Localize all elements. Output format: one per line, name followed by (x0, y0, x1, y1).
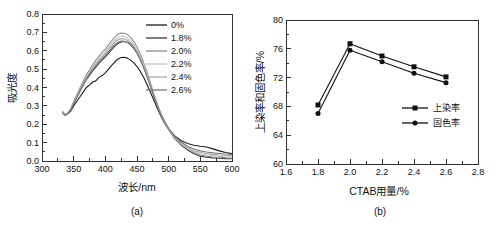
legend-label: 上染率 (433, 102, 460, 113)
marker-square (316, 102, 321, 107)
marker-circle (413, 121, 418, 126)
plot-frame-a (42, 14, 232, 161)
y-tick-label: 60 (273, 159, 283, 169)
y-tick-label: 72 (273, 73, 283, 83)
x-tick-label: 400 (98, 164, 113, 174)
legend-label: 2.2% (171, 59, 192, 69)
x-tick-label: 1.8 (312, 167, 325, 177)
marker-circle (348, 48, 353, 53)
y-tick-label: 0.8 (26, 9, 39, 19)
y-tick-label: 64 (273, 130, 283, 140)
marker-square (412, 64, 417, 69)
chart-a-x-axis-label: 波长/nm (118, 179, 156, 194)
plot-frame-b (286, 20, 478, 164)
series-line-2.4% (62, 39, 232, 156)
x-tick-label: 2.0 (344, 167, 357, 177)
x-tick-label: 350 (66, 164, 81, 174)
figure: 3003504004505005506000.00.10.20.30.40.50… (0, 0, 496, 230)
panel-b: 1.61.82.02.22.42.62.8606468727680上染率固色率 … (248, 0, 496, 230)
y-tick-label: 0.0 (26, 156, 39, 166)
y-tick-label: 68 (273, 101, 283, 111)
series-line-1.8% (62, 42, 232, 159)
x-tick-label: 2.6 (440, 167, 453, 177)
x-tick-label: 2.2 (376, 167, 389, 177)
y-tick-label: 0.2 (26, 119, 39, 129)
series-line-2.0% (62, 33, 232, 158)
y-tick-label: 0.1 (26, 138, 39, 148)
marker-circle (316, 111, 321, 116)
marker-circle (444, 80, 449, 85)
legend-label: 2.4% (171, 72, 192, 82)
marker-square (348, 41, 353, 46)
legend-label: 0% (171, 20, 184, 30)
x-tick-label: 2.4 (408, 167, 421, 177)
chart-a-canvas: 3003504004505005506000.00.10.20.30.40.50… (0, 0, 248, 230)
legend-label: 2.0% (171, 46, 192, 56)
legend-label: 固色率 (433, 117, 460, 128)
panel-a-caption: (a) (131, 206, 143, 217)
marker-square (380, 54, 385, 59)
chart-a-y-axis-label: 吸光度 (4, 73, 19, 103)
y-tick-label: 80 (273, 15, 283, 25)
series-line-上染率 (318, 44, 446, 105)
x-tick-label: 550 (193, 164, 208, 174)
chart-b-y-axis-label: 上染率和固色率/% (252, 51, 267, 133)
x-tick-label: 2.8 (472, 167, 485, 177)
y-tick-label: 0.7 (26, 27, 39, 37)
marker-circle (380, 59, 385, 64)
x-tick-label: 500 (161, 164, 176, 174)
legend-label: 2.6% (171, 85, 192, 95)
x-tick-label: 450 (129, 164, 144, 174)
panel-a: 3003504004505005506000.00.10.20.30.40.50… (0, 0, 248, 230)
marker-square (413, 106, 418, 111)
x-tick-label: 600 (224, 164, 239, 174)
series-line-2.6% (62, 41, 232, 154)
y-tick-label: 76 (273, 44, 283, 54)
series-line-2.2% (62, 36, 232, 157)
y-tick-label: 0.4 (26, 83, 39, 93)
y-tick-label: 0.5 (26, 64, 39, 74)
marker-circle (412, 71, 417, 76)
y-tick-label: 0.6 (26, 46, 39, 56)
panel-b-caption: (b) (374, 206, 386, 217)
legend-label: 1.8% (171, 33, 192, 43)
y-tick-label: 0.3 (26, 101, 39, 111)
marker-square (444, 74, 449, 79)
chart-b-x-axis-label: CTAB用量/% (349, 183, 408, 198)
